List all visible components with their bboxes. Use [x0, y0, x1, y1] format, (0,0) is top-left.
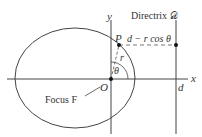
d-label: d [178, 81, 184, 93]
focus-pointer-line [85, 87, 100, 96]
origin-point [109, 77, 113, 81]
angle-label: θ [114, 65, 119, 76]
conic-diagram: y x Directrix 𝒟 P d − r cos θ r θ O d Fo… [0, 0, 202, 137]
y-axis-label: y [106, 10, 112, 22]
distance-label: d − r cos θ [127, 33, 171, 44]
point-p-label: P [114, 32, 122, 44]
directrix-point [174, 43, 178, 47]
directrix-label: Directrix 𝒟 [131, 10, 178, 21]
origin-label: O [100, 81, 108, 93]
radius-label: r [120, 52, 124, 63]
x-axis-label: x [190, 72, 196, 84]
focus-label: Focus F [45, 94, 77, 105]
